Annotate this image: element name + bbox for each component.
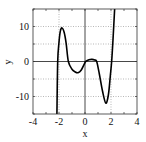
- y-axis-label: y: [2, 60, 13, 65]
- x-tick-label: 2: [109, 116, 114, 127]
- x-tick-label: 4: [135, 116, 140, 127]
- x-tick-label: 0: [83, 116, 88, 127]
- y-tick-label: 10: [19, 21, 29, 32]
- x-tick-label: -2: [55, 116, 63, 127]
- x-axis-label: x: [83, 128, 88, 139]
- x-tick-label: -4: [29, 116, 37, 127]
- x-tick-labels: -4-2024: [29, 116, 140, 127]
- y-tick-label: -10: [16, 91, 29, 102]
- plot: -4-2024 -10010 x y: [0, 0, 146, 142]
- y-tick-label: 0: [24, 56, 29, 67]
- y-tick-labels: -10010: [16, 21, 29, 102]
